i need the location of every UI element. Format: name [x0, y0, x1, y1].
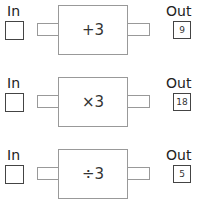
in-label: In — [7, 76, 20, 90]
in-label: In — [7, 4, 20, 18]
input-box[interactable] — [5, 93, 24, 112]
out-label: Out — [166, 4, 191, 18]
input-connector — [37, 23, 59, 36]
input-connector — [37, 167, 59, 180]
out-label: Out — [166, 148, 191, 162]
function-machine: +3 — [58, 5, 128, 55]
function-machine-row-3: In ÷3 Out 5 — [0, 144, 199, 208]
function-machine-row-1: In +3 Out 9 — [0, 0, 199, 70]
output-connector — [127, 95, 150, 108]
function-machine: ×3 — [58, 77, 128, 127]
function-machine: ÷3 — [58, 149, 128, 199]
output-box: 18 — [173, 93, 191, 111]
output-connector — [127, 23, 150, 36]
output-box: 9 — [173, 21, 191, 39]
output-box: 5 — [173, 165, 191, 183]
out-label: Out — [166, 76, 191, 90]
input-box[interactable] — [5, 165, 24, 184]
output-connector — [127, 167, 150, 180]
function-machine-row-2: In ×3 Out 18 — [0, 72, 199, 142]
input-box[interactable] — [5, 21, 24, 40]
in-label: In — [7, 148, 20, 162]
input-connector — [37, 95, 59, 108]
